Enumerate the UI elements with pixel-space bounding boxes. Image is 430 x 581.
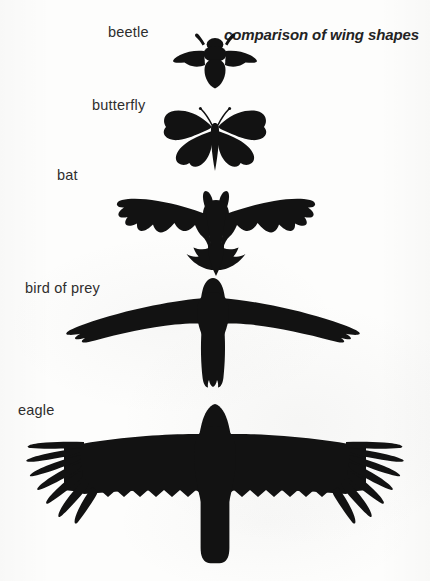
butterfly-silhouette-icon [161,103,269,175]
label-bat: bat [57,167,78,183]
wing-shape-comparison-figure: comparison of wing shapes beetle butterf… [0,0,430,581]
eagle-silhouette-icon [20,398,410,573]
bat-silhouette-icon [96,188,336,283]
bird-of-prey-silhouette-icon [63,272,363,392]
beetle-silhouette-icon [172,30,258,92]
label-butterfly: butterfly [92,97,145,113]
label-beetle: beetle [108,24,149,40]
